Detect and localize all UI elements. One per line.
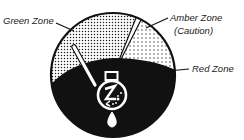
red-zone-label: Red Zone	[192, 64, 234, 74]
green-zone-leader	[56, 23, 74, 31]
green-zone-label: Green Zone	[3, 16, 54, 26]
amber-zone-label: Amber Zone	[170, 13, 222, 23]
amber-zone-leader	[146, 18, 168, 28]
amber-zone-note: (Caution)	[174, 26, 213, 36]
